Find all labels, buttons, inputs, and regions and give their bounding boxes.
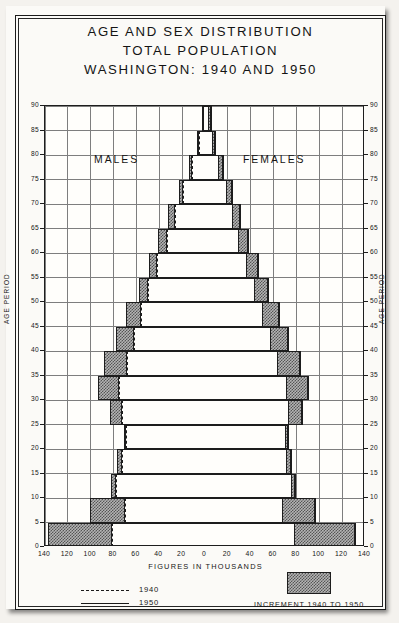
edge-left-1950 bbox=[124, 425, 125, 450]
edge-left-1950 bbox=[179, 180, 180, 205]
y-tick-label-left: 20 bbox=[17, 444, 39, 451]
bar-left-1940 bbox=[192, 155, 205, 180]
y-tick-mark-left bbox=[40, 228, 44, 229]
y-tick-mark-right bbox=[364, 399, 368, 400]
y-tick-label-left: 85 bbox=[17, 126, 39, 133]
bar-left-1940 bbox=[122, 400, 205, 425]
bar-right-increment bbox=[246, 253, 257, 278]
bar-left-1940 bbox=[119, 376, 205, 401]
bar-left-1940 bbox=[112, 523, 205, 547]
page-title: AGE AND SEX DISTRIBUTION TOTAL POPULATIO… bbox=[18, 22, 383, 79]
edge-left-1950 bbox=[149, 253, 150, 278]
y-tick-label-right: 30 bbox=[370, 395, 392, 402]
y-tick-label-right: 60 bbox=[370, 248, 392, 255]
y-tick-label-left: 15 bbox=[17, 469, 39, 476]
bar-right-1940 bbox=[205, 302, 262, 327]
y-tick-mark-left bbox=[40, 154, 44, 155]
y-tick-label-right: 85 bbox=[370, 126, 392, 133]
bar-right-1940 bbox=[205, 400, 288, 425]
y-tick-label-left: 30 bbox=[17, 395, 39, 402]
bar-left-increment bbox=[149, 253, 157, 278]
y-tick-mark-right bbox=[364, 228, 368, 229]
y-tick-label-right: 5 bbox=[370, 518, 392, 525]
edge-right-1950 bbox=[288, 327, 289, 352]
edge-left-1940 bbox=[157, 253, 158, 278]
edge-left-1950 bbox=[189, 155, 190, 180]
y-tick-mark-left bbox=[40, 277, 44, 278]
screenshot-canvas: AGE AND SEX DISTRIBUTION TOTAL POPULATIO… bbox=[0, 0, 399, 623]
bar-right-increment bbox=[286, 376, 308, 401]
bar-left-1940 bbox=[183, 180, 205, 205]
edge-right-1950 bbox=[240, 204, 241, 229]
legend-increment: INCREMENT 1940 TO 1950 bbox=[234, 572, 384, 609]
edge-right-1940 bbox=[291, 474, 292, 499]
edge-left-1950 bbox=[197, 131, 198, 156]
y-tick-mark-right bbox=[364, 105, 368, 106]
edge-right-1940 bbox=[288, 400, 289, 425]
edge-right-1940 bbox=[270, 327, 271, 352]
bar-right-1940 bbox=[205, 351, 277, 376]
dashed-line-icon bbox=[81, 590, 129, 591]
edge-right-1950 bbox=[291, 449, 292, 474]
edge-left-1950 bbox=[117, 449, 118, 474]
bar-right-1940 bbox=[205, 278, 254, 303]
edge-left-1950 bbox=[110, 400, 111, 425]
y-tick-label-left: 75 bbox=[17, 175, 39, 182]
x-axis-title: FIGURES IN THOUSANDS bbox=[6, 562, 399, 571]
y-tick-mark-left bbox=[40, 497, 44, 498]
y-tick-label-right: 15 bbox=[370, 469, 392, 476]
bar-left-1940 bbox=[175, 204, 205, 229]
edge-right-1940 bbox=[208, 106, 209, 131]
title-line-2: TOTAL POPULATION bbox=[18, 41, 383, 60]
bar-right-1940 bbox=[205, 204, 232, 229]
bar-left-1940 bbox=[122, 449, 205, 474]
y-tick-mark-left bbox=[40, 546, 44, 547]
bar-left-1940 bbox=[157, 253, 205, 278]
y-tick-mark-right bbox=[364, 301, 368, 302]
y-tick-label-left: 40 bbox=[17, 346, 39, 353]
y-tick-label-left: 60 bbox=[17, 248, 39, 255]
bar-left-increment bbox=[126, 302, 141, 327]
chart-paper: AGE AND SEX DISTRIBUTION TOTAL POPULATIO… bbox=[6, 6, 385, 609]
edge-right-1950 bbox=[279, 302, 280, 327]
bar-left-increment bbox=[90, 498, 125, 523]
y-tick-label-right: 40 bbox=[370, 346, 392, 353]
y-tick-mark-right bbox=[364, 497, 368, 498]
y-tick-label-right: 0 bbox=[370, 542, 392, 549]
bar-right-1940 bbox=[205, 131, 212, 156]
edge-right-1940 bbox=[232, 204, 233, 229]
y-tick-mark-right bbox=[364, 154, 368, 155]
y-tick-label-left: 65 bbox=[17, 224, 39, 231]
y-tick-mark-left bbox=[40, 252, 44, 253]
bar-left-increment bbox=[48, 523, 112, 547]
y-tick-mark-left bbox=[40, 424, 44, 425]
y-tick-label-left: 10 bbox=[17, 493, 39, 500]
y-tick-label-left: 0 bbox=[17, 542, 39, 549]
edge-left-1940 bbox=[127, 351, 128, 376]
bar-left-1940 bbox=[167, 229, 205, 254]
y-tick-mark-right bbox=[364, 277, 368, 278]
bar-left-increment bbox=[116, 327, 134, 352]
bar-right-1940 bbox=[205, 498, 282, 523]
y-tick-mark-right bbox=[364, 203, 368, 204]
bar-right-increment bbox=[282, 498, 315, 523]
bar-left-1940 bbox=[116, 474, 205, 499]
y-tick-mark-left bbox=[40, 448, 44, 449]
edge-right-1940 bbox=[246, 253, 247, 278]
edge-left-1950 bbox=[98, 376, 99, 401]
edge-right-1940 bbox=[277, 351, 278, 376]
y-tick-mark-right bbox=[364, 326, 368, 327]
y-tick-mark-left bbox=[40, 301, 44, 302]
bar-right-1940 bbox=[205, 376, 286, 401]
y-tick-mark-right bbox=[364, 448, 368, 449]
y-tick-label-left: 70 bbox=[17, 199, 39, 206]
bar-right-1940 bbox=[205, 155, 218, 180]
edge-right-1950 bbox=[288, 425, 289, 450]
edge-left-1940 bbox=[192, 155, 193, 180]
y-tick-label-right: 80 bbox=[370, 150, 392, 157]
y-tick-mark-left bbox=[40, 203, 44, 204]
y-tick-label-right: 55 bbox=[370, 273, 392, 280]
males-label: MALES bbox=[94, 154, 139, 165]
bar-right-1940 bbox=[205, 229, 238, 254]
y-tick-label-right: 75 bbox=[370, 175, 392, 182]
